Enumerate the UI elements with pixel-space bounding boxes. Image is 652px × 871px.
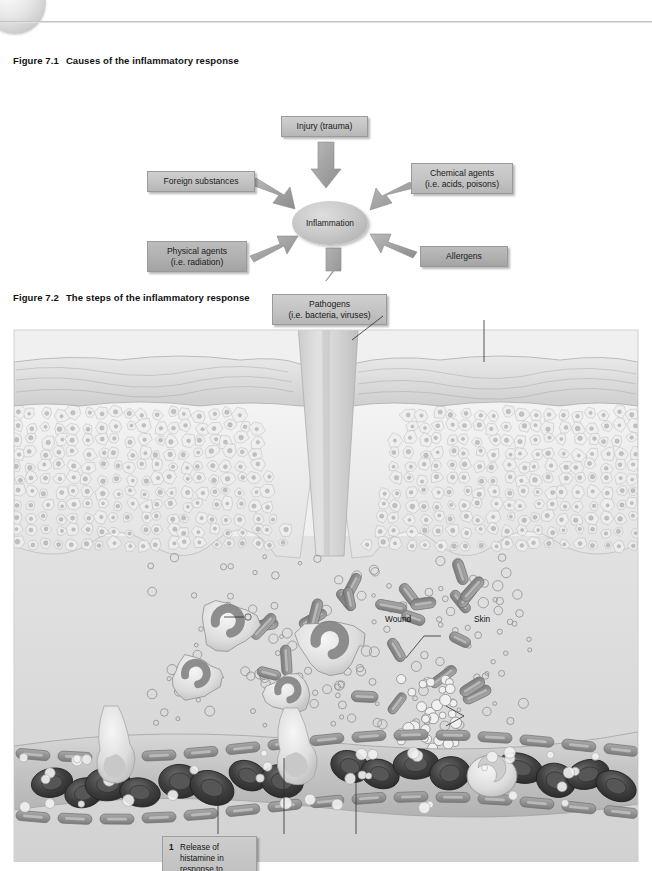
figure-1-caption-text: Causes of the inflammatory response	[66, 55, 239, 66]
cause-label-chemical-agents: Chemical agents (i.e. acids, poisons)	[425, 168, 499, 189]
step-1-number: 1	[169, 842, 180, 871]
arrow-pathogens	[319, 248, 341, 281]
cause-box-allergens: Allergens	[420, 246, 508, 267]
figure-2-caption: Figure 7.2The steps of the inflammatory …	[13, 292, 250, 303]
inflammation-node-label: Inflammation	[306, 218, 354, 228]
figure-2-illustration: 1 Release of histamine in response to da…	[0, 306, 652, 862]
figure-1-caption: Figure 7.1Causes of the inflammatory res…	[13, 55, 239, 66]
figure-1-caption-number: Figure 7.1	[13, 55, 59, 66]
header-divider	[0, 21, 652, 23]
label-skin: Skin	[474, 614, 490, 624]
arrow-physical	[250, 236, 298, 262]
cause-label-physical-line2: (i.e. radiation)	[171, 257, 224, 267]
step-box-1: 1 Release of histamine in response to da…	[162, 836, 257, 871]
cause-box-chemical-agents: Chemical agents (i.e. acids, poisons)	[411, 163, 513, 194]
arrow-foreign	[252, 178, 295, 209]
inflammation-node: Inflammation	[292, 201, 368, 245]
cause-box-physical-agents: Physical agents (i.e. radiation)	[147, 241, 247, 272]
figure-1-arrows	[0, 66, 652, 281]
cause-label-injury: Injury (trauma)	[297, 121, 353, 132]
cause-box-foreign-substances: Foreign substances	[147, 171, 255, 192]
figure-2-caption-text: The steps of the inflammatory response	[66, 292, 250, 303]
cause-label-physical-line1: Physical agents	[167, 246, 227, 256]
page-corner-badge	[0, 0, 46, 34]
cause-label-chemical-line2: (i.e. acids, poisons)	[425, 179, 499, 189]
cause-label-allergens: Allergens	[446, 251, 482, 262]
cause-label-foreign-substances: Foreign substances	[164, 176, 239, 187]
cause-box-injury: Injury (trauma)	[281, 116, 368, 137]
cause-label-physical-agents: Physical agents (i.e. radiation)	[167, 246, 227, 267]
arrow-allergens	[370, 234, 417, 258]
skin-wound-artwork	[0, 306, 652, 862]
cause-label-chemical-line1: Chemical agents	[430, 168, 494, 178]
figure-2-caption-number: Figure 7.2	[13, 292, 59, 303]
figure-1-diagram: Injury (trauma) Foreign substances Chemi…	[0, 66, 652, 281]
arrow-injury	[311, 142, 341, 188]
arrow-chemical	[370, 182, 414, 210]
step-1-text: Release of histamine in response to dama…	[180, 842, 249, 871]
label-wound: Wound	[385, 614, 411, 624]
